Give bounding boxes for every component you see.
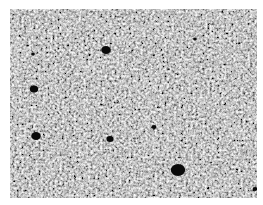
pore: [31, 53, 35, 56]
micrograph-image: [10, 9, 257, 198]
shading-layer: [10, 9, 257, 198]
pore: [193, 38, 197, 41]
pore: [30, 86, 38, 93]
pore: [101, 46, 111, 54]
pore: [171, 164, 185, 176]
pore: [152, 125, 157, 129]
grain-texture: [10, 9, 257, 198]
pore: [31, 132, 41, 140]
pore: [106, 136, 113, 142]
